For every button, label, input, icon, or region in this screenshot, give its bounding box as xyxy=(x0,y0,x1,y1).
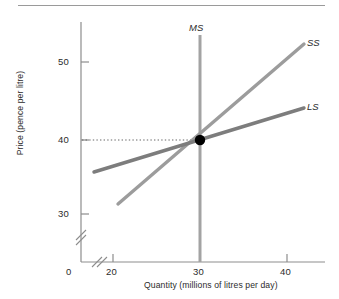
equilibrium-point xyxy=(195,135,205,145)
y-tick-label-30: 30 xyxy=(58,208,69,219)
supply-curves-figure: 50 40 30 0 20 30 40 Price (pence per lit… xyxy=(0,0,339,299)
x-tick-label-20: 20 xyxy=(106,266,117,277)
ss-curve xyxy=(118,44,304,204)
y-tick-label-0: 0 xyxy=(66,266,71,277)
x-tick-label-40: 40 xyxy=(280,266,291,277)
ms-curve-label: MS xyxy=(189,22,203,33)
ls-curve-label: LS xyxy=(307,101,319,112)
chart-canvas xyxy=(0,0,339,299)
x-tick-label-30: 30 xyxy=(193,266,204,277)
y-tick-label-40: 40 xyxy=(58,134,69,145)
ss-curve-label: SS xyxy=(307,37,320,48)
y-tick-label-50: 50 xyxy=(58,56,69,67)
y-axis-title: Price (pence per litre) xyxy=(15,48,25,178)
x-axis-title: Quantity (millions of litres per day) xyxy=(144,280,278,290)
